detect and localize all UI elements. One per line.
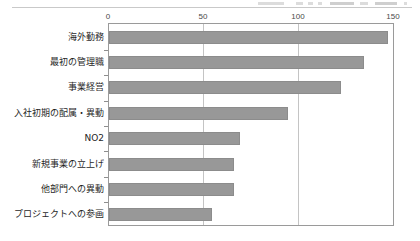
y-axis-tick-mark xyxy=(104,126,108,127)
y-axis-category-label: 入社初期の配属・異動 xyxy=(0,108,104,119)
y-axis-category-label: NO2 xyxy=(0,133,104,144)
y-axis-category-labels: 海外勤務最初の管理職事業経営入社初期の配属・異動NO2新規事業の立上げ他部門への… xyxy=(0,23,104,226)
page-top-rule xyxy=(12,7,412,8)
x-axis-tick-labels: 050100150 xyxy=(0,11,420,23)
x-axis-tick-label: 50 xyxy=(199,11,208,22)
scan-speck xyxy=(296,2,303,5)
scan-speck xyxy=(318,2,322,5)
y-axis-tick-mark xyxy=(104,75,108,76)
bar xyxy=(109,56,364,69)
y-axis-tick-mark xyxy=(104,151,108,152)
scan-artifact-strip xyxy=(0,0,420,9)
y-axis-tick-mark xyxy=(104,50,108,51)
x-axis-tick-label: 0 xyxy=(106,11,110,22)
y-axis-category-label: 事業経営 xyxy=(0,82,104,93)
bar-series xyxy=(109,24,393,225)
y-axis-category-label: 他部門への異動 xyxy=(0,184,104,195)
y-axis-category-label: 海外勤務 xyxy=(0,32,104,43)
bar xyxy=(109,107,288,120)
scan-speck xyxy=(375,2,397,5)
x-axis-tick-label: 150 xyxy=(386,11,399,22)
bar xyxy=(109,158,234,171)
bar xyxy=(109,81,341,94)
y-axis-tick-mark xyxy=(104,202,108,203)
scan-speck xyxy=(308,2,313,5)
y-axis-category-label: 新規事業の立上げ xyxy=(0,159,104,170)
scan-speck xyxy=(404,2,407,5)
bar xyxy=(109,208,212,221)
bar xyxy=(109,132,240,145)
y-axis-tick-mark xyxy=(104,177,108,178)
y-axis-category-label: プロジェクトへの参画 xyxy=(0,209,104,220)
x-axis-tick-label: 100 xyxy=(291,11,304,22)
scan-speck xyxy=(360,2,368,5)
y-axis-tick-mark xyxy=(104,101,108,102)
bar xyxy=(109,31,388,44)
chart-figure: 050100150 海外勤務最初の管理職事業経営入社初期の配属・異動NO2新規事… xyxy=(0,0,420,241)
bar xyxy=(109,183,234,196)
scan-speck xyxy=(258,2,284,5)
y-axis-category-label: 最初の管理職 xyxy=(0,57,104,68)
scan-speck xyxy=(330,2,354,5)
